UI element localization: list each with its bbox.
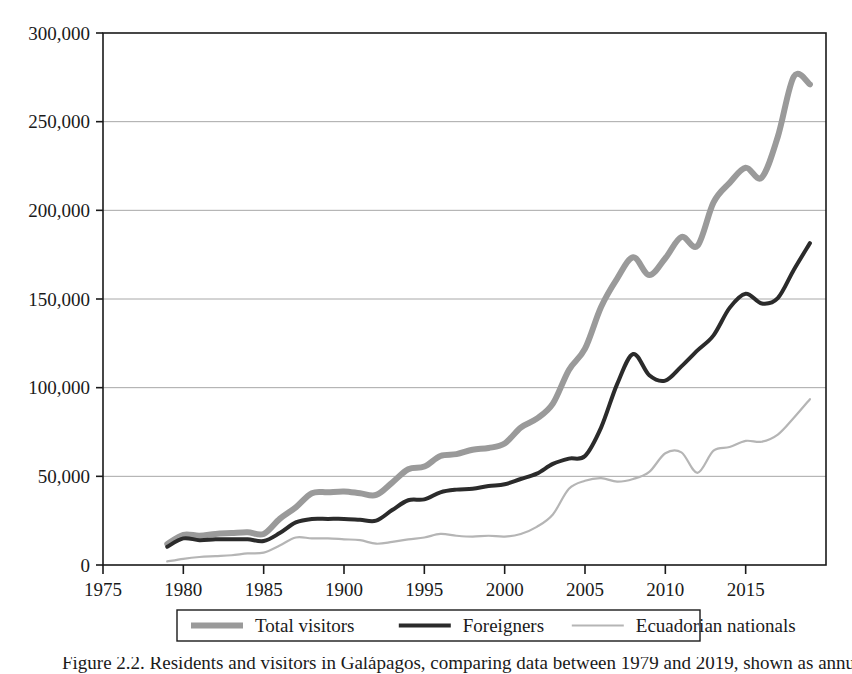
x-tick-label: 2010 bbox=[646, 579, 684, 600]
figure-caption-clip: Figure 2.2. Residents and visitors in Ga… bbox=[0, 657, 852, 674]
figure-container: 050,000100,000150,000200,000250,000300,0… bbox=[0, 0, 852, 674]
y-tick-label: 0 bbox=[81, 555, 91, 576]
x-tick-label: 2005 bbox=[566, 579, 604, 600]
y-tick-label: 250,000 bbox=[28, 111, 90, 132]
figure-caption: Figure 2.2. Residents and visitors in Ga… bbox=[62, 657, 852, 674]
x-tick-label: 2015 bbox=[727, 579, 765, 600]
series-line-total-visitors bbox=[167, 74, 810, 544]
line-chart: 050,000100,000150,000200,000250,000300,0… bbox=[0, 0, 852, 674]
x-tick-label: 1995 bbox=[405, 579, 443, 600]
legend-label-1: Foreigners bbox=[463, 615, 544, 636]
y-tick-label: 100,000 bbox=[28, 377, 90, 398]
y-tick-label: 150,000 bbox=[28, 289, 90, 310]
series-line-foreigners bbox=[167, 243, 810, 547]
x-tick-label: 1980 bbox=[164, 579, 202, 600]
x-tick-label: 1975 bbox=[84, 579, 122, 600]
y-tick-label: 200,000 bbox=[28, 200, 90, 221]
y-tick-label: 50,000 bbox=[38, 466, 90, 487]
x-tick-label: 1985 bbox=[245, 579, 283, 600]
x-tick-label: 2000 bbox=[486, 579, 524, 600]
legend-label-2: Ecuadorian nationals bbox=[636, 615, 796, 636]
legend-label-0: Total visitors bbox=[255, 615, 354, 636]
y-tick-label: 300,000 bbox=[28, 23, 90, 44]
x-tick-label: 1900 bbox=[325, 579, 363, 600]
